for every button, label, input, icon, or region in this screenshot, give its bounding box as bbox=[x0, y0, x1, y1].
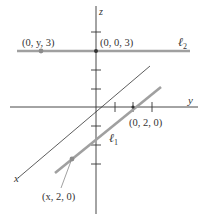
diagram-canvas: z y x (0, y, 3) (0, 0, 3) (0, 2, 0) (x, … bbox=[0, 0, 204, 217]
label-0-y-3: (0, y, 3) bbox=[22, 37, 55, 49]
label-0-2-0: (0, 2, 0) bbox=[129, 117, 163, 129]
point-0-0-3 bbox=[94, 49, 98, 53]
x-axis-label: x bbox=[13, 172, 19, 184]
label-l1: ℓ1 bbox=[109, 131, 118, 147]
label-0-0-3: (0, 0, 3) bbox=[100, 37, 134, 49]
point-x-2-0 bbox=[70, 157, 75, 162]
label-l2: ℓ2 bbox=[178, 35, 187, 51]
point-0-2-0 bbox=[131, 105, 134, 108]
point-0-y-3 bbox=[39, 49, 44, 54]
y-axis-label: y bbox=[187, 94, 193, 106]
label-x-2-0: (x, 2, 0) bbox=[42, 191, 76, 203]
z-axis-label: z bbox=[98, 6, 103, 17]
